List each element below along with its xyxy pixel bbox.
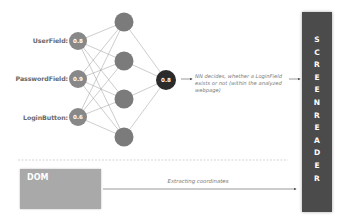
screen-reader-bar: S C R E E N R E A D E R bbox=[302, 12, 332, 212]
input-label-userfield: UserField: bbox=[8, 37, 68, 44]
sr-letter: D bbox=[314, 147, 320, 160]
input-node-passwordfield: 0.9 bbox=[69, 70, 87, 88]
hidden-node-3 bbox=[115, 90, 134, 109]
sr-letter: R bbox=[314, 173, 320, 186]
input-value-passwordfield: 0.9 bbox=[73, 76, 83, 82]
extracting-coordinates-label: Extracting coordinates bbox=[150, 178, 246, 184]
sr-letter: E bbox=[314, 160, 319, 173]
diagram: 0.8 0.9 0.6 0.8 UserField: PasswordField… bbox=[0, 0, 349, 223]
sr-letter: E bbox=[314, 72, 319, 85]
sr-letter: N bbox=[314, 97, 320, 110]
hidden-node-1 bbox=[115, 13, 134, 32]
input-value-loginbutton: 0.6 bbox=[73, 114, 83, 120]
dom-label: DOM bbox=[27, 173, 48, 182]
dom-box: DOM bbox=[20, 169, 101, 209]
sr-letter: R bbox=[314, 110, 320, 123]
input-value-userfield: 0.8 bbox=[73, 38, 83, 44]
sr-letter: R bbox=[314, 59, 320, 72]
sr-letter: E bbox=[314, 122, 319, 135]
sr-letter: E bbox=[314, 84, 319, 97]
sr-letter: A bbox=[314, 135, 320, 148]
output-node: 0.8 bbox=[156, 70, 176, 90]
input-node-userfield: 0.8 bbox=[69, 32, 87, 50]
hidden-node-4 bbox=[115, 128, 134, 147]
nn-decision-text: NN decides, whether a LoginField exists … bbox=[195, 73, 291, 94]
input-node-loginbutton: 0.6 bbox=[69, 108, 87, 126]
sr-letter: C bbox=[314, 47, 320, 60]
output-value: 0.8 bbox=[161, 77, 171, 83]
sr-letter: S bbox=[314, 34, 319, 47]
screen-reader-label: S C R E E N R E A D E R bbox=[302, 34, 332, 185]
input-label-loginbutton: LoginButton: bbox=[8, 114, 68, 121]
input-label-passwordfield: PasswordField: bbox=[8, 75, 68, 82]
hidden-node-2 bbox=[115, 52, 134, 71]
